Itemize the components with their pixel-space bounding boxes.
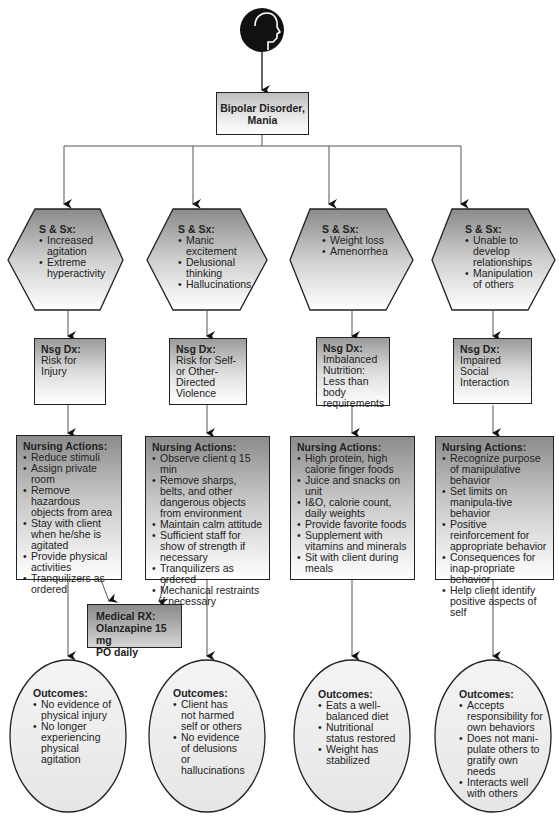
outcome-item: Accepts responsibility for own behaviors xyxy=(459,700,543,733)
signs-item: Amenorrhea xyxy=(322,246,402,257)
main-diagnosis-box: Bipolar Disorder, Mania xyxy=(216,92,309,135)
medical-rx-drug: Olanzapine 15 mg xyxy=(96,622,173,646)
action-item: Positive reinforcement for appropriate b… xyxy=(442,519,547,552)
action-item: Provide physical activities xyxy=(23,551,115,573)
action-item: Tranquilizers as ordered xyxy=(23,573,115,595)
action-item: Remove sharps, belts, and other dangerou… xyxy=(152,475,263,519)
nsg-dx-text: Imbalanced Nutrition: Less than body req… xyxy=(323,353,384,409)
action-item: Consequences for inap-propriate behavior xyxy=(442,552,547,585)
medical-rx-box: Medical RX: Olanzapine 15 mg PO daily xyxy=(87,604,182,648)
signs-symptoms-col1: S & Sx: Increased agitation Extreme hype… xyxy=(39,224,109,279)
action-item: Tranquilizers as ordered xyxy=(152,563,263,585)
action-item: Help client identify positive aspects of… xyxy=(442,585,547,618)
nursing-diagnosis-col4: Nsg Dx: Impaired Social Interaction xyxy=(453,338,532,404)
nsg-dx-text: Risk for Self- or Other-Directed Violenc… xyxy=(176,354,236,399)
action-item: I&O, calorie count, daily weights xyxy=(297,497,408,519)
outcomes-col3: Outcomes: Eats a well-balanced diet Nutr… xyxy=(318,689,398,766)
nursing-diagnosis-col2: Nsg Dx: Risk for Self- or Other-Directed… xyxy=(169,338,247,405)
medical-rx-title: Medical RX: xyxy=(96,610,173,622)
nursing-diagnosis-col3: Nsg Dx: Imbalanced Nutrition: Less than … xyxy=(316,337,390,406)
outcome-item: Client has not harmed self or others xyxy=(173,699,245,732)
outcome-item: No longer experiencing physical agitatio… xyxy=(33,721,113,765)
main-diagnosis-line2: Mania xyxy=(248,114,278,126)
signs-symptoms-col2: S & Sx: Manic excitement Delusional thin… xyxy=(178,224,250,290)
nsg-dx-text: Impaired Social Interaction xyxy=(460,354,509,388)
outcomes-col1: Outcomes: No evidence of physical injury… xyxy=(33,688,113,765)
nursing-actions-col2: Nursing Actions: Observe client q 15 min… xyxy=(145,436,270,580)
action-item: Recognize purpose of manipulative behavi… xyxy=(442,453,547,486)
action-item: Observe client q 15 min xyxy=(152,453,263,475)
outcomes-col2: Outcomes: Client has not harmed self or … xyxy=(173,688,245,776)
signs-symptoms-col4: S & Sx: Unable to develop relationships … xyxy=(465,224,541,290)
action-item: Juice and snacks on unit xyxy=(297,475,408,497)
signs-item: Delusional thinking xyxy=(178,257,250,279)
outcome-item: No evidence of physical injury xyxy=(33,699,113,721)
action-item: Sufficient staff for show of strength if… xyxy=(152,530,263,563)
nursing-actions-col1: Nursing Actions: Reduce stimuli Assign p… xyxy=(16,435,122,580)
action-item: High protein, high calorie finger foods xyxy=(297,453,408,475)
medical-rx-schedule: PO daily xyxy=(96,646,173,658)
outcome-item: Interacts well with others xyxy=(459,777,543,799)
outcome-item: Weight has stabilized xyxy=(318,744,398,766)
action-item: Set limits on manipula-tive behavior xyxy=(442,486,547,519)
action-item: Stay with client when he/she is agitated xyxy=(23,518,115,551)
main-diagnosis-line1: Bipolar Disorder, xyxy=(220,102,305,114)
signs-item: Unable to develop relationships xyxy=(465,235,541,268)
nursing-diagnosis-col1: Nsg Dx: Risk for Injury xyxy=(34,338,106,405)
signs-item: Manipulation of others xyxy=(465,268,541,290)
signs-item: Manic excitement xyxy=(178,235,250,257)
signs-symptoms-col3: S & Sx: Weight loss Amenorrhea xyxy=(322,224,402,257)
action-item: Assign private room xyxy=(23,463,115,485)
outcome-item: Eats a well-balanced diet xyxy=(318,700,398,722)
nursing-actions-col3: Nursing Actions: High protein, high calo… xyxy=(290,436,415,580)
action-item: Remove hazardous objects from area xyxy=(23,485,115,518)
head-profile-icon xyxy=(240,8,284,52)
signs-item: Extreme hyperactivity xyxy=(39,257,109,279)
outcome-item: No evidence of delusions or hallucinatio… xyxy=(173,732,245,776)
action-item: Supplement with vitamins and minerals xyxy=(297,530,408,552)
nsg-dx-text: Risk for Injury xyxy=(41,354,77,377)
signs-item: Hallucinations xyxy=(178,279,250,290)
outcome-item: Does not mani-pulate others to gratify o… xyxy=(459,733,543,777)
signs-item: Increased agitation xyxy=(39,235,109,257)
nursing-actions-col4: Nursing Actions: Recognize purpose of ma… xyxy=(435,436,554,580)
outcome-item: Nutritional status restored xyxy=(318,722,398,744)
action-item: Sit with client during meals xyxy=(297,552,408,574)
outcomes-col4: Outcomes: Accepts responsibility for own… xyxy=(459,689,543,799)
